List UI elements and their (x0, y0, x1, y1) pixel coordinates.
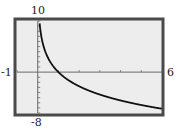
xmax-label: 6 (167, 67, 174, 78)
ymax-label: 10 (31, 5, 45, 16)
xmin-label: -1 (1, 67, 12, 78)
calculator-graph-screen (0, 0, 180, 133)
ymin-label: -8 (31, 117, 42, 128)
graph-frame (15, 19, 163, 115)
